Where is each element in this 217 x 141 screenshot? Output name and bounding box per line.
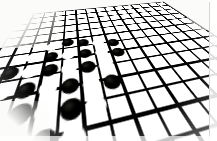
white-stone	[82, 75, 101, 93]
black-stone	[0, 66, 20, 81]
white-stone	[18, 64, 39, 79]
black-stone	[60, 76, 79, 94]
go-board-photo: Go board with stones in perspective	[0, 0, 217, 141]
white-stone	[36, 78, 57, 97]
white-stone	[91, 38, 104, 46]
white-stone	[94, 47, 109, 57]
black-stone	[76, 38, 88, 46]
white-stone	[44, 42, 58, 51]
white-stone	[24, 52, 41, 63]
right-margin-strip	[209, 0, 217, 141]
white-stone	[97, 58, 115, 72]
black-stone	[59, 96, 83, 122]
black-stone	[110, 47, 126, 57]
black-stone	[106, 38, 120, 46]
white-stone	[60, 61, 77, 75]
black-stone	[40, 63, 59, 78]
white-stone	[61, 49, 75, 60]
black-stone	[43, 51, 58, 62]
black-stone	[78, 48, 92, 58]
white-stone	[84, 93, 108, 119]
black-stone	[12, 80, 37, 100]
black-stone	[2, 101, 34, 129]
black-stone	[61, 38, 73, 46]
black-stone	[102, 73, 123, 90]
board-viewport	[0, 0, 217, 141]
white-stone	[31, 98, 58, 125]
black-stone	[79, 60, 96, 74]
perspective-stage	[0, 0, 217, 141]
board-plane	[0, 0, 217, 141]
white-stone	[0, 82, 15, 102]
right-hairline-border	[209, 2, 210, 139]
stones-layer	[0, 0, 217, 141]
bottom-margin-strip	[0, 136, 217, 141]
